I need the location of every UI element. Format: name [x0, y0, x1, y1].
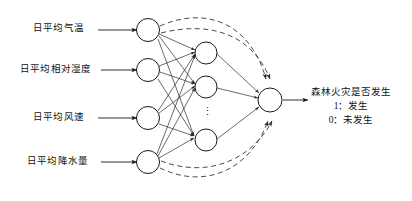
hidden-to-output-edges	[217, 54, 259, 139]
output-label-title: 森林火灾是否发生	[311, 86, 391, 100]
output-node[interactable]	[258, 88, 282, 112]
input-feed-arrows	[98, 30, 137, 162]
input-to-hidden-edges	[157, 34, 195, 158]
hidden-node-2[interactable]	[195, 76, 217, 98]
input-node-4[interactable]	[137, 151, 160, 174]
hidden-node-3[interactable]	[195, 129, 217, 151]
input-node-3[interactable]	[137, 107, 160, 130]
input-label-temperature: 日平均气温	[33, 22, 84, 35]
hidden-layer-ellipsis-icon: ⋮	[202, 106, 213, 117]
input-node-1[interactable]	[137, 19, 160, 42]
input-node-2[interactable]	[137, 59, 160, 82]
input-label-wind-speed: 日平均风速	[33, 111, 84, 124]
output-label-class-0: 0：未发生	[311, 114, 391, 128]
hidden-node-1[interactable]	[195, 42, 217, 64]
input-label-relative-humidity: 日平均相对湿度	[20, 63, 91, 76]
neural-network-diagram: 日平均气温 日平均相对湿度 日平均风速 日平均降水量 ⋮ 森林火灾是否发生 1：…	[0, 0, 412, 201]
output-label-block: 森林火灾是否发生 1：发生 0：未发生	[311, 86, 391, 127]
output-label-class-1: 1：发生	[311, 100, 391, 114]
input-label-precipitation: 日平均降水量	[27, 155, 88, 168]
